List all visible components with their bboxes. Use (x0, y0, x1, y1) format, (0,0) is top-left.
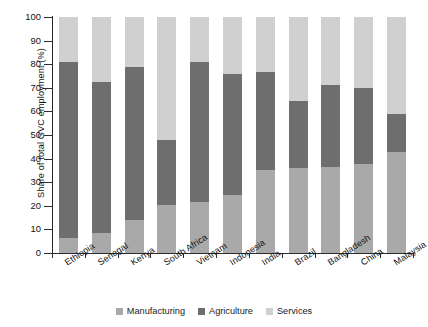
legend-item-agriculture[interactable]: Agriculture (198, 306, 253, 316)
bar-segment-services (387, 17, 406, 114)
bar-malaysia (387, 17, 406, 253)
y-axis-tick-label: 40 (0, 154, 41, 163)
bar-segment-agriculture (289, 101, 308, 168)
legend-swatch-icon (266, 308, 273, 315)
bar-china (354, 17, 373, 253)
bar-south-africa (157, 17, 176, 253)
y-axis-tick-label: 10 (0, 224, 41, 233)
y-axis-tick (44, 17, 52, 18)
bar-segment-services (223, 17, 242, 74)
bar-segment-agriculture (125, 67, 144, 220)
bar-segment-agriculture (92, 82, 111, 233)
bar-segment-agriculture (223, 74, 242, 196)
bar-segment-agriculture (354, 88, 373, 165)
bar-segment-services (256, 17, 275, 72)
y-axis-tick (44, 88, 52, 89)
bar-bangladesh (321, 17, 340, 253)
bar-segment-services (59, 17, 78, 62)
y-axis-tick (44, 229, 52, 230)
y-axis-tick (44, 206, 52, 207)
bar-segment-agriculture (256, 72, 275, 170)
y-axis-tick (44, 111, 52, 112)
bar-segment-services (289, 17, 308, 101)
y-axis-tick-label: 20 (0, 201, 41, 210)
y-axis-tick-label: 80 (0, 59, 41, 68)
y-axis-tick-label: 50 (0, 130, 41, 139)
y-axis-tick-label: 70 (0, 83, 41, 92)
legend-label: Agriculture (209, 306, 253, 316)
legend-label: Manufacturing (127, 306, 185, 316)
bar-segment-agriculture (321, 85, 340, 166)
bar-segment-services (190, 17, 209, 62)
y-axis-tick-label: 0 (0, 248, 41, 257)
chart-container: Share of total GVC employment (%) 100908… (0, 0, 428, 327)
y-axis-tick-label: 60 (0, 106, 41, 115)
bar-segment-services (92, 17, 111, 82)
y-axis-tick (44, 159, 52, 160)
x-axis-tick (52, 253, 53, 258)
legend-item-services[interactable]: Services (266, 306, 312, 316)
y-axis-tick (44, 253, 52, 254)
bar-kenya (125, 17, 144, 253)
y-axis-tick (44, 64, 52, 65)
bar-indonesia (223, 17, 242, 253)
y-axis-tick (44, 182, 52, 183)
y-axis-tick (44, 41, 52, 42)
legend-swatch-icon (116, 308, 123, 315)
bar-segment-agriculture (157, 140, 176, 205)
chart-legend: ManufacturingAgricultureServices (0, 306, 428, 316)
y-axis-tick (44, 135, 52, 136)
bar-vietnam (190, 17, 209, 253)
bar-segment-agriculture (190, 62, 209, 202)
legend-label: Services (277, 306, 312, 316)
bar-segment-manufacturing (387, 152, 406, 253)
bar-segment-services (157, 17, 176, 140)
bar-senegal (92, 17, 111, 253)
bar-segment-manufacturing (157, 205, 176, 253)
bar-segment-services (354, 17, 373, 88)
plot-area (52, 17, 413, 253)
legend-item-manufacturing[interactable]: Manufacturing (116, 306, 185, 316)
bar-segment-manufacturing (289, 168, 308, 253)
bar-brazil (289, 17, 308, 253)
bar-segment-agriculture (387, 114, 406, 152)
bar-ethiopia (59, 17, 78, 253)
bar-segment-services (321, 17, 340, 85)
bar-india (256, 17, 275, 253)
bar-segment-services (125, 17, 144, 67)
y-axis-tick-label: 30 (0, 177, 41, 186)
bar-segment-manufacturing (321, 167, 340, 253)
y-axis-tick-label: 100 (0, 12, 41, 21)
legend-swatch-icon (198, 308, 205, 315)
bar-segment-agriculture (59, 62, 78, 238)
y-axis-tick-label: 90 (0, 36, 41, 45)
